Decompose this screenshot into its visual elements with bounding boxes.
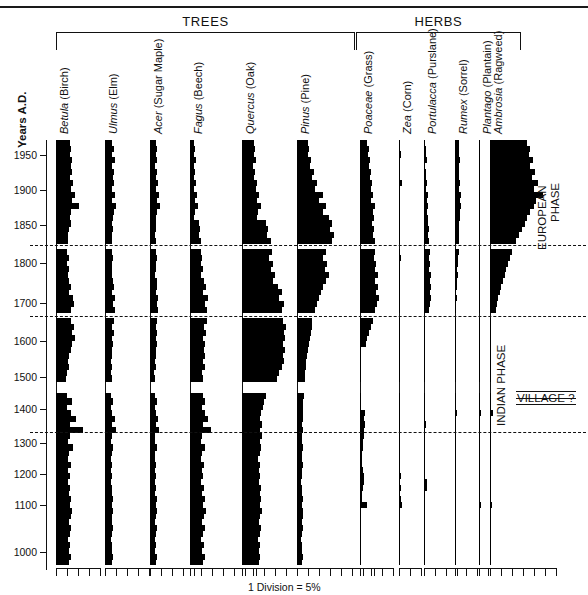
bar xyxy=(479,559,480,565)
bar xyxy=(399,307,400,313)
plot-area xyxy=(46,140,542,565)
bar xyxy=(490,238,516,244)
bar xyxy=(56,238,68,244)
bar xyxy=(490,375,491,381)
bar xyxy=(399,559,400,565)
taxon-genus-quercus: Quercus xyxy=(244,92,256,134)
taxon-common-portulacca: (Purslane) xyxy=(426,28,438,82)
bar xyxy=(190,375,203,381)
scale-tick xyxy=(138,568,139,576)
horizon-line-village-horizon xyxy=(30,432,586,433)
taxon-common-zea: (Corn) xyxy=(401,81,413,115)
scale-tick xyxy=(105,568,106,576)
scale-tick xyxy=(466,568,467,576)
scale-band-ambrosia xyxy=(490,568,556,577)
taxon-genus-betula: Betula xyxy=(58,103,70,134)
scale-caption: 1 Division = 5% xyxy=(248,581,321,593)
y-tick-label-1600: 1600 xyxy=(3,335,37,347)
bar xyxy=(297,307,315,313)
bar xyxy=(455,307,456,313)
bar xyxy=(455,375,456,381)
taxon-label-text-acer: Acer (Sugar Maple) xyxy=(152,39,164,134)
y-tick-label-1950: 1950 xyxy=(3,149,37,161)
scale-tick xyxy=(523,568,524,576)
taxon-genus-rumex: Rumex xyxy=(457,99,469,134)
bar xyxy=(56,559,69,565)
scale-tick xyxy=(455,568,456,576)
scale-tick xyxy=(410,568,411,576)
taxon-genus-zea: Zea xyxy=(401,115,413,134)
scale-tick xyxy=(264,568,265,576)
group-bracket-trees xyxy=(56,32,355,50)
bar xyxy=(150,375,155,381)
scale-band-ulmus xyxy=(105,568,149,577)
taxon-label-text-quercus: Quercus (Oak) xyxy=(244,62,256,134)
y-tick-label-1400: 1400 xyxy=(3,403,37,415)
horizon-line-european-contact xyxy=(30,245,586,246)
bar xyxy=(150,238,156,244)
bar xyxy=(479,307,480,313)
scale-rule xyxy=(360,568,393,569)
bar xyxy=(242,375,277,381)
scale-tick xyxy=(352,568,353,576)
bar xyxy=(150,559,156,565)
y-tick-label-1800: 1800 xyxy=(3,257,37,269)
taxon-common-quercus: (Oak) xyxy=(244,62,256,93)
scale-tick xyxy=(172,568,173,576)
taxon-label-text-zea: Zea (Corn) xyxy=(401,81,413,134)
scale-tick xyxy=(183,568,184,576)
bar xyxy=(424,307,429,313)
bar xyxy=(479,375,480,381)
taxon-label-text-portulacca: Portulacca (Purslane) xyxy=(426,28,438,134)
y-tick-label-1200: 1200 xyxy=(3,468,37,480)
bar xyxy=(105,375,112,381)
taxon-common-acer: (Sugar Maple) xyxy=(152,39,164,112)
scale-tick xyxy=(89,568,90,576)
y-axis-title-label: Years A.D. xyxy=(16,92,28,148)
scale-tick xyxy=(161,568,162,576)
bar xyxy=(190,307,207,313)
bar xyxy=(190,238,201,244)
scale-rule xyxy=(424,568,457,569)
pollen-diagram-figure: TREESHERBS Years A.D. Betula (Birch)Ulmu… xyxy=(0,0,588,595)
taxon-label-text-fagus: Fagus (Beech) xyxy=(192,62,204,134)
bar xyxy=(105,238,112,244)
taxon-genus-ambrosia: Ambrosia xyxy=(492,88,504,134)
bar xyxy=(360,238,375,244)
scale-tick xyxy=(477,568,478,576)
bar xyxy=(105,559,112,565)
bar xyxy=(424,238,429,244)
scale-tick xyxy=(382,568,383,576)
scale-tick xyxy=(512,568,513,576)
scale-band-betula xyxy=(56,568,100,577)
bar xyxy=(150,307,158,313)
scale-tick xyxy=(150,568,151,576)
taxon-genus-acer: Acer xyxy=(152,111,164,134)
group-label-trees: TREES xyxy=(56,14,355,29)
scale-tick xyxy=(446,568,447,576)
scale-tick xyxy=(393,568,394,576)
taxon-label-text-ulmus: Ulmus (Elm) xyxy=(107,74,119,135)
scale-tick xyxy=(399,568,400,576)
scale-tick xyxy=(127,568,128,576)
y-tick-label-1500: 1500 xyxy=(3,371,37,383)
scale-tick xyxy=(421,568,422,576)
scale-tick xyxy=(341,568,342,576)
scale-tick xyxy=(100,568,101,576)
bar xyxy=(105,307,115,313)
scale-tick xyxy=(242,568,243,576)
bar xyxy=(360,559,361,565)
taxon-common-ulmus: (Elm) xyxy=(107,74,119,103)
taxon-label-text-poaceae: Poaceae (Grass) xyxy=(362,51,374,134)
bar xyxy=(424,559,425,565)
y-tick-label-1850: 1850 xyxy=(3,219,37,231)
bar xyxy=(399,238,400,244)
scale-tick xyxy=(212,568,213,576)
y-tick-label-1000: 1000 xyxy=(3,546,37,558)
bar xyxy=(360,375,361,381)
scale-band-acer xyxy=(150,568,194,577)
scale-band-poaceae xyxy=(360,568,393,577)
scale-tick xyxy=(435,568,436,576)
taxon-common-fagus: (Beech) xyxy=(192,62,204,104)
scale-tick xyxy=(223,568,224,576)
